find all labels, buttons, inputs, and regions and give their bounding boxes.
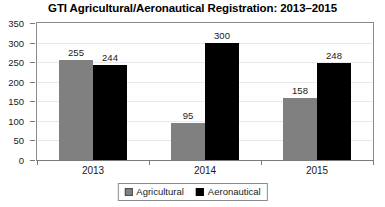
y-tick-label: 100 xyxy=(8,115,24,126)
chart-title: GTI Agricultural/Aeronautical Registrati… xyxy=(0,2,385,14)
y-tick-mark xyxy=(30,43,35,44)
y-tick-mark xyxy=(30,101,35,102)
bar-chart: GTI Agricultural/Aeronautical Registrati… xyxy=(0,0,385,207)
bar-agricultural-2013[interactable] xyxy=(59,60,93,160)
legend-item-aeronautical[interactable]: Aeronautical xyxy=(196,186,261,197)
legend-label: Aeronautical xyxy=(208,186,261,197)
y-tick-mark xyxy=(30,160,35,161)
bar-value-label: 248 xyxy=(311,50,357,61)
bar-agricultural-2015[interactable] xyxy=(283,98,317,160)
y-axis: 050100150200250300350 xyxy=(0,22,30,161)
bar-aeronautical-2013[interactable] xyxy=(93,65,127,161)
x-tick-label-2014: 2014 xyxy=(194,165,216,176)
y-tick-mark xyxy=(30,121,35,122)
bar-aeronautical-2015[interactable] xyxy=(317,63,351,160)
y-tick-mark xyxy=(30,140,35,141)
y-tick-label: 300 xyxy=(8,37,24,48)
y-tick-label: 50 xyxy=(13,135,24,146)
bar-group: 158248 xyxy=(283,23,351,160)
x-tick-label-2015: 2015 xyxy=(306,165,328,176)
x-tick-mark xyxy=(373,161,374,165)
bar-group: 95300 xyxy=(171,23,239,160)
bar-value-label: 244 xyxy=(87,52,133,63)
y-tick-mark xyxy=(30,62,35,63)
x-tick-mark xyxy=(261,161,262,165)
bar-aeronautical-2014[interactable] xyxy=(205,43,239,160)
x-axis: 201320142015 xyxy=(36,161,374,179)
legend-swatch-icon xyxy=(196,188,204,196)
chart-legend: AgriculturalAeronautical xyxy=(117,183,267,201)
legend-swatch-icon xyxy=(124,188,132,196)
legend-item-agricultural[interactable]: Agricultural xyxy=(124,186,184,197)
x-tick-label-2013: 2013 xyxy=(82,165,104,176)
bar-agricultural-2014[interactable] xyxy=(171,123,205,160)
bar-value-label: 300 xyxy=(199,30,245,41)
y-tick-label: 200 xyxy=(8,76,24,87)
y-tick-label: 150 xyxy=(8,96,24,107)
x-tick-mark xyxy=(37,161,38,165)
x-tick-mark xyxy=(149,161,150,165)
y-tick-label: 350 xyxy=(8,18,24,29)
y-tick-label: 250 xyxy=(8,57,24,68)
y-tick-mark xyxy=(30,23,35,24)
y-tick-label: 0 xyxy=(19,155,24,166)
legend-label: Agricultural xyxy=(136,186,184,197)
bar-group: 255244 xyxy=(59,23,127,160)
y-tick-mark xyxy=(30,82,35,83)
bars-layer: 25524495300158248 xyxy=(37,23,373,160)
